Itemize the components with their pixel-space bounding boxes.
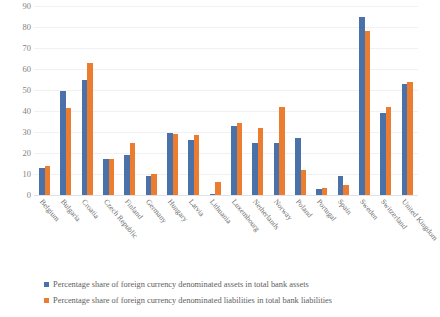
bar-liabilities <box>173 134 179 195</box>
bar-liabilities <box>386 107 392 195</box>
bar-group <box>247 6 268 195</box>
x-axis-label: Latvia <box>187 198 206 218</box>
x-axis-label-cell: Switzerland <box>375 196 396 276</box>
x-axis-label-cell: Portugal <box>311 196 332 276</box>
x-axis-label-cell: Luxembourg <box>226 196 247 276</box>
bar-group <box>333 6 354 195</box>
bar-group <box>55 6 76 195</box>
bar-group <box>226 6 247 195</box>
legend-label: Percentage share of foreign currency den… <box>53 280 309 289</box>
legend-item[interactable]: Percentage share of foreign currency den… <box>44 278 424 291</box>
x-axis-label-cell: Sweden <box>354 196 375 276</box>
x-axis-label-cell: Latvia <box>183 196 204 276</box>
bar-group <box>375 6 396 195</box>
bar-liabilities <box>322 188 328 195</box>
x-axis-label-cell: Bulgaria <box>55 196 76 276</box>
y-axis-tick-20: 20 <box>23 149 32 158</box>
y-axis-tick-0: 0 <box>27 191 31 200</box>
x-axis-label-cell: Belgium <box>34 196 55 276</box>
bar-liabilities <box>194 135 200 195</box>
bar-group <box>141 6 162 195</box>
bar-liabilities <box>151 174 157 195</box>
x-axis-label-cell: Poland <box>290 196 311 276</box>
bar-liabilities <box>407 82 413 195</box>
x-axis-label-cell: Lithuania <box>205 196 226 276</box>
y-axis-tick-70: 70 <box>23 44 32 53</box>
bar-group <box>269 6 290 195</box>
chart-legend: Percentage share of foreign currency den… <box>44 278 424 310</box>
legend-label: Percentage share of foreign currency den… <box>53 296 332 305</box>
legend-item[interactable]: Percentage share of foreign currency den… <box>44 294 424 307</box>
x-axis-label-cell: Norway <box>269 196 290 276</box>
x-axis-labels: BelgiumBulgariaCroatiaCzech RepublicFinl… <box>34 196 418 276</box>
bar-group <box>205 6 226 195</box>
bar-liabilities <box>45 166 51 195</box>
bar-liabilities <box>343 185 349 196</box>
x-axis-label: Spain <box>336 198 353 216</box>
y-axis-tick-80: 80 <box>23 23 32 32</box>
bar-group <box>34 6 55 195</box>
legend-swatch-icon <box>44 298 49 303</box>
y-axis-tick-30: 30 <box>23 128 32 137</box>
bar-liabilities <box>66 108 72 195</box>
bar-group <box>77 6 98 195</box>
bar-liabilities <box>365 31 371 195</box>
plot-area: 9080706050403020100 BelgiumBulgariaCroat… <box>0 0 424 200</box>
bar-liabilities <box>130 143 136 196</box>
y-axis: 9080706050403020100 <box>0 0 34 200</box>
x-axis-label-cell: Czech Republic <box>98 196 119 276</box>
bar-group <box>183 6 204 195</box>
bar-group <box>354 6 375 195</box>
y-axis-tick-60: 60 <box>23 65 32 74</box>
bar-liabilities <box>237 123 243 195</box>
x-axis-label: Poland <box>293 198 313 219</box>
bar-group <box>290 6 311 195</box>
y-axis-tick-90: 90 <box>23 2 32 11</box>
x-axis-label-cell: Hungary <box>162 196 183 276</box>
y-axis-tick-50: 50 <box>23 86 32 95</box>
plot-canvas <box>34 6 418 195</box>
x-axis-label-cell: United Kingdom <box>397 196 418 276</box>
x-axis-label-cell: Spain <box>333 196 354 276</box>
x-axis-label-cell: Croatia <box>77 196 98 276</box>
x-axis-label-cell: Germany <box>141 196 162 276</box>
x-axis-label-cell: Finland <box>119 196 140 276</box>
bar-liabilities <box>258 128 264 195</box>
bar-liabilities <box>279 107 285 195</box>
bar-group <box>98 6 119 195</box>
bar-group <box>119 6 140 195</box>
bar-liabilities <box>301 170 307 195</box>
y-axis-tick-10: 10 <box>23 170 32 179</box>
bar-groups <box>34 6 418 195</box>
bar-liabilities <box>109 159 115 195</box>
bar-liabilities <box>215 182 221 195</box>
legend-swatch-icon <box>44 282 49 287</box>
bar-group <box>162 6 183 195</box>
bar-group <box>311 6 332 195</box>
bar-liabilities <box>87 63 93 195</box>
x-axis-label: United Kingdom <box>400 198 439 242</box>
x-axis-label-cell: Netherlands <box>247 196 268 276</box>
bar-group <box>397 6 418 195</box>
y-axis-tick-40: 40 <box>23 107 32 116</box>
